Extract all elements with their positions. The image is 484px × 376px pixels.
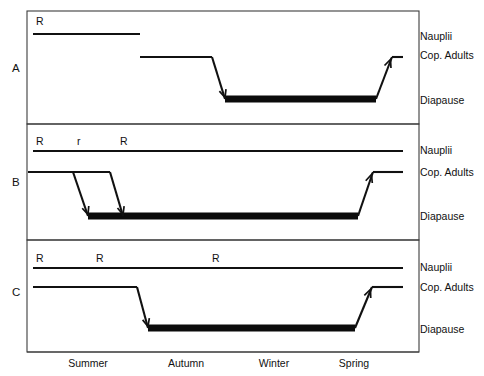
panel-frame bbox=[27, 11, 419, 124]
panel-a: ARNaupliiCop. AdultsDiapause bbox=[12, 11, 474, 124]
label-cop-adults: Cop. Adults bbox=[420, 281, 474, 293]
ascent-line-1 bbox=[355, 287, 372, 328]
recruitment-mark-3: R bbox=[212, 252, 220, 264]
recruitment-mark-1: R bbox=[36, 252, 44, 264]
descent-line-1 bbox=[73, 172, 88, 216]
panel-letter-b: B bbox=[12, 176, 20, 188]
panels-layer: ARNaupliiCop. AdultsDiapauseBRrRNaupliiC… bbox=[12, 11, 474, 352]
panel-b: BRrRNaupliiCop. AdultsDiapause bbox=[12, 124, 474, 240]
panel-letter-a: A bbox=[12, 62, 20, 74]
season-axis: SummerAutumnWinterSpring bbox=[27, 352, 419, 369]
panel-frame bbox=[27, 240, 419, 352]
recruitment-mark-3: R bbox=[120, 135, 128, 147]
panel-c: CRRRNaupliiCop. AdultsDiapause bbox=[12, 240, 474, 352]
season-label-autumn: Autumn bbox=[168, 357, 204, 369]
panel-frame bbox=[27, 124, 419, 240]
label-nauplii: Nauplii bbox=[420, 261, 452, 273]
label-diapause: Diapause bbox=[420, 210, 465, 222]
recruitment-mark-1: R bbox=[36, 15, 44, 27]
panel-letter-c: C bbox=[12, 286, 20, 298]
label-diapause: Diapause bbox=[420, 323, 465, 335]
descent-line-1 bbox=[212, 57, 225, 99]
season-label-winter: Winter bbox=[259, 357, 290, 369]
descent-line-1 bbox=[137, 287, 148, 328]
figure-root: ARNaupliiCop. AdultsDiapauseBRrRNaupliiC… bbox=[0, 0, 484, 376]
ascent-line-1 bbox=[358, 172, 373, 216]
ascent-line-1 bbox=[376, 57, 392, 99]
label-diapause: Diapause bbox=[420, 94, 465, 106]
recruitment-mark-1: R bbox=[36, 135, 44, 147]
label-cop-adults: Cop. Adults bbox=[420, 166, 474, 178]
descent-line-2 bbox=[110, 172, 123, 216]
season-label-summer: Summer bbox=[68, 357, 108, 369]
season-label-spring: Spring bbox=[339, 357, 370, 369]
label-nauplii: Nauplii bbox=[420, 30, 452, 42]
life-cycle-diagram: ARNaupliiCop. AdultsDiapauseBRrRNaupliiC… bbox=[0, 0, 484, 376]
label-cop-adults: Cop. Adults bbox=[420, 49, 474, 61]
recruitment-mark-2: r bbox=[77, 135, 81, 147]
recruitment-mark-2: R bbox=[96, 252, 104, 264]
label-nauplii: Nauplii bbox=[420, 144, 452, 156]
